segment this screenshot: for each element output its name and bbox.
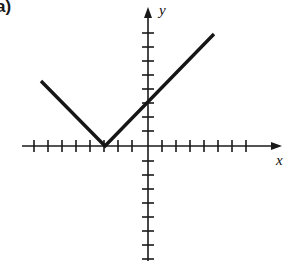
x-axis-label: x [276, 153, 283, 168]
y-axis-label: y [159, 3, 166, 18]
coordinate-plane [0, 0, 289, 261]
x-axis-group [22, 140, 282, 152]
absolute-value-curve [41, 34, 214, 146]
x-axis-arrow-icon [271, 142, 282, 150]
plotted-curves [41, 34, 214, 146]
y-axis-arrow-icon [144, 7, 152, 18]
graph-figure: a) y x [0, 0, 289, 261]
y-axis-group [142, 7, 154, 261]
